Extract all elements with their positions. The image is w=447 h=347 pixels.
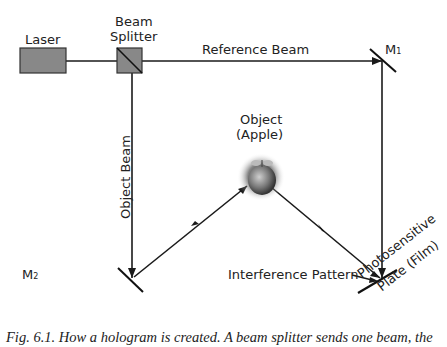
mirror2-label: M2 [22,268,38,284]
splitter-label-line1: Beam [115,15,153,29]
laser-box [20,48,66,73]
interference-pattern-label: Interference Pattern [228,268,358,282]
object-label-line1: Object [240,113,282,127]
reference-beam-label: Reference Beam [202,43,309,57]
figure-caption: Fig. 6.1. How a hologram is created. A b… [6,329,433,346]
splitter-label-line2: Splitter [110,30,157,44]
apple-icon [237,153,285,201]
object-beam-label: Object Beam [119,127,133,227]
beam-paths [66,61,382,281]
object-label-line2: (Apple) [236,128,283,142]
mirror1-label: M1 [385,43,401,59]
laser-label: Laser [25,33,60,47]
